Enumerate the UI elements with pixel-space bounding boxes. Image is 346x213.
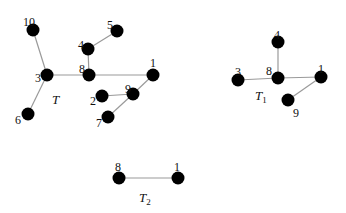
graph-label: T <box>52 92 60 107</box>
node-label: 8 <box>79 62 85 76</box>
graph-label: T2 <box>139 190 151 207</box>
node-label: 3 <box>235 65 241 79</box>
node-8 <box>272 72 285 85</box>
node-label: 6 <box>15 113 21 127</box>
node-label: 8 <box>266 64 272 78</box>
node-label: 8 <box>115 160 121 174</box>
node-9 <box>282 94 295 107</box>
node-label: 5 <box>107 18 113 32</box>
node-1 <box>147 69 160 82</box>
node-label: 10 <box>23 15 35 29</box>
node-6 <box>22 108 35 121</box>
node-label: 7 <box>96 116 102 130</box>
graph-t: 10543812967T <box>15 15 160 130</box>
node-label: 2 <box>90 94 96 108</box>
node-2 <box>96 90 109 103</box>
node-label: 9 <box>125 82 131 96</box>
node-label: 9 <box>293 106 299 120</box>
node-3 <box>41 69 54 82</box>
node-label: 3 <box>35 71 41 85</box>
node-7 <box>102 111 115 124</box>
tree-diagram: 10543812967T43819T181T2 <box>0 0 346 213</box>
node-label: 4 <box>274 28 280 42</box>
graph-t1: 43819T1 <box>232 28 328 120</box>
graph-label: T1 <box>255 88 267 105</box>
node-label: 4 <box>78 38 84 52</box>
node-label: 1 <box>150 56 156 70</box>
node-label: 1 <box>318 62 324 76</box>
node-label: 1 <box>174 160 180 174</box>
edge-10-3 <box>33 30 47 75</box>
diagram-svg: 10543812967T43819T181T2 <box>0 0 346 213</box>
graph-t2: 81T2 <box>113 160 185 207</box>
